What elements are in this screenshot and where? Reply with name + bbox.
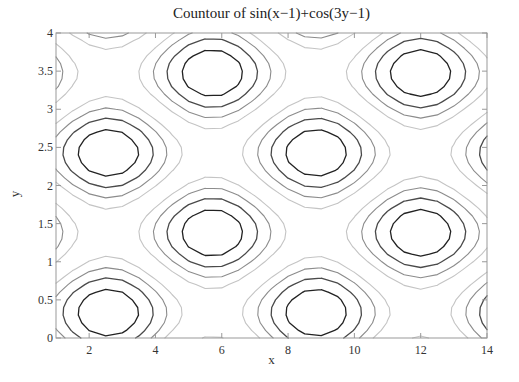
y-axis-ticks: 00.511.522.533.54 <box>38 26 487 345</box>
y-tick-label: 0 <box>47 331 53 345</box>
y-tick-label: 0.5 <box>38 293 53 307</box>
y-tick-label: 1.5 <box>38 217 53 231</box>
y-tick-label: 2.5 <box>38 140 53 154</box>
contour-level-1_6 <box>78 130 346 336</box>
contour-level-1_2 <box>63 118 487 338</box>
y-tick-label: 1 <box>47 255 53 269</box>
y-tick-label: 4 <box>47 26 53 40</box>
contour-lines <box>56 33 487 338</box>
x-axis-ticks: 2468101214 <box>86 33 493 357</box>
y-axis-label: y <box>7 191 23 198</box>
contour-level-neg1_2 <box>167 38 466 267</box>
contour-level-neg0_8 <box>56 33 479 278</box>
x-axis-label: x <box>56 352 487 368</box>
contour-figure: Countour of sin(x−1)+cos(3y−1) 246810121… <box>0 0 519 382</box>
y-tick-label: 3.5 <box>38 64 53 78</box>
y-tick-label: 3 <box>47 102 53 116</box>
contour-level-neg1_6 <box>182 50 450 257</box>
plot-area: 2468101214 00.511.522.533.54 <box>0 0 519 382</box>
y-tick-label: 2 <box>47 179 53 193</box>
